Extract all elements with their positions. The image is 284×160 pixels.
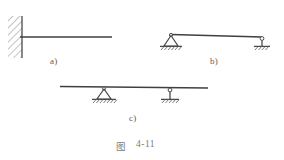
panel-label-a: a) [50, 56, 57, 66]
pin-support-b-left [160, 33, 182, 50]
panel-label-c: c) [129, 113, 136, 123]
rocker-ground-hatch-c-right [162, 100, 179, 103]
pin-ground-hatch-b-left [161, 47, 182, 50]
rocker-hinge-c-right [168, 88, 172, 92]
beam-c [60, 87, 208, 89]
panel-c-overhanging [60, 87, 208, 104]
panel-b-simply-supported [160, 33, 270, 50]
panel-a-cantilever [8, 16, 112, 58]
rocker-support-b-right [254, 37, 270, 50]
figure-container: a) b) c) 图 4-11 [0, 0, 284, 160]
panel-label-b: b) [210, 56, 218, 66]
rocker-ground-hatch-b-right [255, 47, 269, 50]
beam-b [171, 35, 262, 38]
figure-caption-prefix: 图 [116, 139, 127, 153]
fixed-wall-support-a [8, 16, 22, 58]
figure-caption-number: 4-11 [136, 139, 155, 149]
beam-support-diagram [0, 0, 284, 160]
wall-hatching-a [8, 16, 22, 58]
pin-ground-hatch-c-left [93, 100, 117, 103]
rocker-hinge-b-right [260, 37, 264, 41]
rocker-support-c-right [161, 88, 179, 103]
pin-support-c-left [92, 87, 117, 103]
